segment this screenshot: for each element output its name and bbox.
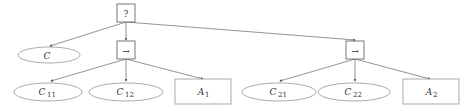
node-label: C: [44, 51, 51, 61]
node-action-a1: A 1: [175, 79, 231, 104]
behavior-tree-diagram: ? C → → C 11 C 12 A 1 C 21 C: [0, 0, 473, 111]
node-label: ?: [124, 9, 129, 19]
node-label: A: [425, 87, 433, 97]
node-condition-c22: C 22: [318, 83, 390, 101]
node-sequence-2: →: [346, 41, 364, 59]
node-label: C: [270, 87, 277, 97]
edge-root-c: [50, 22, 126, 46]
node-label: C: [117, 87, 124, 97]
node-label: A: [197, 87, 205, 97]
node-subscript: 2: [433, 91, 437, 99]
node-sequence-1: →: [117, 41, 135, 59]
node-condition-c11: C 11: [14, 83, 82, 101]
edge-seq1-a1: [126, 59, 203, 79]
node-condition-c12: C 12: [89, 83, 163, 101]
node-condition-c: C: [18, 47, 80, 63]
node-condition-c21: C 21: [242, 83, 316, 101]
node-label: C: [345, 87, 352, 97]
node-subscript: 12: [125, 91, 134, 99]
node-root-fallback: ?: [117, 4, 135, 22]
node-label: →: [122, 46, 130, 56]
node-subscript: 1: [205, 91, 209, 99]
node-label: C: [39, 87, 46, 97]
node-subscript: 11: [47, 91, 56, 99]
edge-seq2-a2: [355, 59, 430, 79]
edge-seq2-c21: [280, 59, 355, 81]
edges: [50, 22, 430, 81]
node-action-a2: A 2: [403, 79, 459, 104]
edge-root-seq2: [126, 22, 355, 40]
node-subscript: 22: [353, 91, 362, 99]
node-label: →: [351, 46, 359, 56]
node-subscript: 21: [278, 91, 287, 99]
